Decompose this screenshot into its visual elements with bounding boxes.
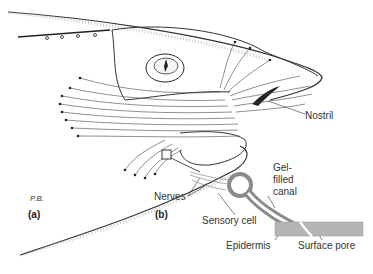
epidermis-label: Epidermis <box>226 240 270 251</box>
gel-label-1: Gel- <box>273 162 292 173</box>
panel-b-label: (b) <box>155 209 168 220</box>
surface-pore-label: Surface pore <box>298 240 355 251</box>
panel-a-label: (a) <box>28 209 40 220</box>
gel-label-3: canal <box>273 186 297 197</box>
signature: P.B. <box>30 193 44 204</box>
gel-label-2: filled <box>273 174 294 185</box>
nostril-label: Nostril <box>305 110 333 121</box>
shark-head-diagram <box>0 0 373 274</box>
nerves-label: Nerves <box>154 191 186 202</box>
sensory-cell-label: Sensory cell <box>202 215 256 226</box>
